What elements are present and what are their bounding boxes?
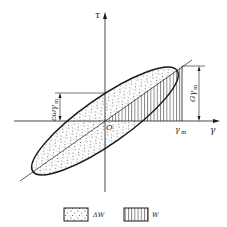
dim-arrow-up-icon [198,66,201,71]
hysteresis-diagram: τ γ O γ m Gγ m cωγ m ΔW W [0,0,227,227]
dim-arrow-down-icon [59,116,62,121]
svg-text:ΔW: ΔW [92,211,106,219]
svg-text:γ: γ [175,125,180,134]
dotted-box-icon [64,208,88,221]
dim-arrow-up-icon [59,93,62,98]
c-omega-gamma-m-label: cωγ m [49,98,59,121]
legend: ΔW W [64,208,160,221]
gamma-label: γ [210,125,216,135]
tau-label: τ [95,10,101,20]
svg-text:m: m [181,129,187,135]
tau-axis-arrow-icon [103,12,107,19]
dim-arrow-down-icon [198,116,201,121]
svg-text:m: m [53,98,59,104]
svg-text:Gγ: Gγ [188,91,197,102]
legend-item-delta-w: ΔW [64,208,106,221]
svg-text:W: W [152,211,160,219]
gamma-axis-arrow-icon [213,119,220,123]
legend-item-w: W [124,208,160,221]
svg-text:cωγ: cωγ [49,105,58,121]
hatched-box-icon [124,208,148,221]
svg-text:m: m [192,84,198,90]
g-gamma-m-label: Gγ m [188,84,198,102]
gamma-m-label: γ m [175,125,187,135]
origin-label: O [106,123,113,132]
